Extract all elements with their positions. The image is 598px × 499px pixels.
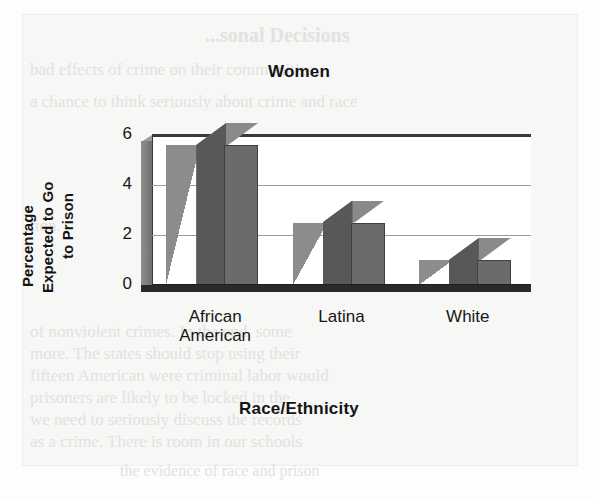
x-category-label-line: White <box>398 307 538 326</box>
y-axis-title: Percentage Expected to Go to Prison <box>18 118 82 293</box>
scanned-page: ...sonal Decisionsbad effects of crime o… <box>0 0 598 499</box>
bar-front-face <box>224 145 258 285</box>
bar-side-face <box>196 123 226 285</box>
y-axis-title-line-3: to Prison <box>59 193 76 259</box>
x-category-label: White <box>398 307 538 326</box>
bar-front-face <box>477 260 511 285</box>
y-axis-title-line-2: Expected to Go <box>39 182 56 293</box>
bar <box>323 223 385 286</box>
y-tick-label: 2 <box>98 224 132 244</box>
x-category-label-line: Latina <box>272 307 412 326</box>
bar-front-face <box>351 223 385 286</box>
bar-shadow <box>166 145 200 285</box>
x-category-label-line: African <box>145 307 285 326</box>
y-tick-label: 6 <box>98 124 132 144</box>
x-axis-title: Race/Ethnicity <box>0 399 598 419</box>
x-category-label: AfricanAmerican <box>145 307 285 345</box>
bar <box>196 145 258 285</box>
left-wall-3d <box>141 141 152 291</box>
bar <box>449 260 511 285</box>
chart-title: Women <box>0 62 598 82</box>
y-tick-label: 0 <box>98 274 132 294</box>
bar-shadow <box>419 260 453 285</box>
y-tick-label: 4 <box>98 174 132 194</box>
bar-shadow <box>293 223 327 286</box>
bar-chart-figure: Women Percentage Expected to Go to Priso… <box>0 0 598 499</box>
y-axis-title-line-1: Percentage <box>19 205 36 287</box>
x-category-label: Latina <box>272 307 412 326</box>
plot-area <box>152 135 531 285</box>
x-category-label-line: American <box>145 326 285 345</box>
floor-shelf-3d <box>141 285 531 292</box>
